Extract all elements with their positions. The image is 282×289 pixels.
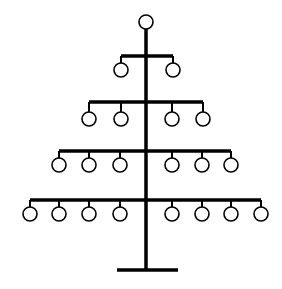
tier-2-node: [114, 112, 128, 126]
tier-4-node: [23, 207, 37, 221]
tier-1-node: [114, 63, 128, 77]
tier-3-node: [224, 158, 238, 172]
tier-2-node: [82, 112, 96, 126]
tier-3-node: [195, 158, 209, 172]
tree-diagram: [0, 0, 282, 289]
tier-1-node: [166, 63, 180, 77]
tier-4-node: [165, 207, 179, 221]
tier-2-node: [196, 112, 210, 126]
root-node: [139, 15, 153, 29]
tier-4-node: [254, 207, 268, 221]
tier-4-node: [82, 207, 96, 221]
tier-4-node: [195, 207, 209, 221]
tier-3-node: [165, 158, 179, 172]
tier-4-node: [113, 207, 127, 221]
tier-3-node: [52, 158, 66, 172]
tier-3-node: [113, 158, 127, 172]
tier-4-node: [224, 207, 238, 221]
tier-2-node: [165, 112, 179, 126]
tier-3-node: [82, 158, 96, 172]
tier-4-node: [52, 207, 66, 221]
